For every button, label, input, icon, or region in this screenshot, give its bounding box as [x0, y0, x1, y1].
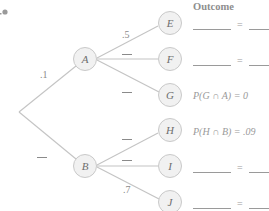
tree-branches — [0, 0, 269, 211]
outcome-f: = — [193, 54, 269, 66]
outcome-header: Outcome — [193, 1, 234, 12]
outcome-i: = — [193, 161, 269, 173]
outcome-f-expr-blank[interactable] — [193, 56, 231, 66]
outcome-f-value-blank[interactable] — [249, 56, 269, 66]
outcome-e-expr-blank[interactable] — [193, 20, 231, 30]
prob-a-e: .5 — [122, 30, 130, 40]
outcome-j: = — [193, 197, 269, 209]
outcome-e: = — [193, 18, 269, 30]
prob-b-j: .7 — [123, 185, 131, 195]
node-h: H — [158, 118, 182, 142]
node-g: G — [158, 83, 182, 107]
node-j: J — [158, 190, 182, 211]
outcome-e-value-blank[interactable] — [249, 20, 269, 30]
equals-sign: = — [237, 163, 243, 173]
prob-a-f-blank[interactable] — [122, 54, 132, 55]
prob-b-h-blank[interactable] — [122, 139, 132, 140]
outcome-h-expression: P(H ∩ B) = .09 — [193, 126, 256, 137]
prob-a-g-blank[interactable] — [122, 92, 132, 93]
equals-sign: = — [237, 199, 243, 209]
prob-b-i-blank[interactable] — [122, 160, 132, 161]
branch-root-b — [19, 112, 76, 159]
prob-root-b-blank[interactable] — [37, 157, 47, 158]
node-a: A — [73, 47, 97, 71]
node-e: E — [158, 11, 182, 35]
outcome-g: P(G ∩ A) = 0 — [193, 89, 248, 101]
outcome-j-expr-blank[interactable] — [193, 199, 231, 209]
outcome-g-expression: P(G ∩ A) = 0 — [193, 90, 248, 101]
equals-sign: = — [237, 20, 243, 30]
prob-root-a: .1 — [40, 70, 48, 80]
node-b: B — [73, 154, 97, 178]
node-f: F — [158, 47, 182, 71]
branch-a-g — [97, 60, 159, 92]
node-i: I — [158, 154, 182, 178]
outcome-i-value-blank[interactable] — [249, 163, 269, 173]
outcome-i-expr-blank[interactable] — [193, 163, 231, 173]
branch-root-a — [19, 66, 76, 112]
outcome-h: P(H ∩ B) = .09 — [193, 125, 256, 137]
outcome-j-value-blank[interactable] — [249, 199, 269, 209]
equals-sign: = — [237, 56, 243, 66]
